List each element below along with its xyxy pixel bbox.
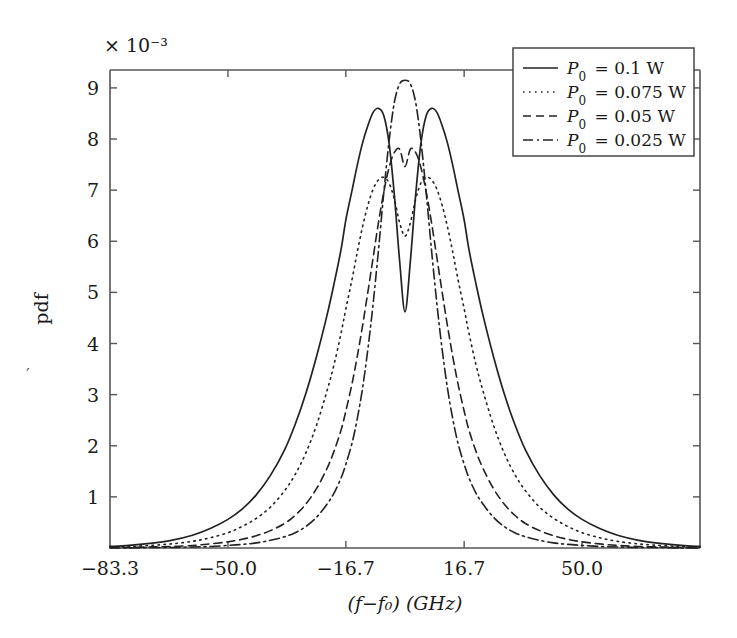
legend-value: = 0.025 W: [589, 130, 686, 150]
y-axis-title: pdf: [30, 291, 52, 324]
x-tick-label: −83.3: [81, 557, 139, 579]
x-tick-labels: −83.3−50.0−16.716.750.0: [81, 557, 603, 579]
curve-series-0: [110, 108, 700, 546]
legend-subscript: 0: [578, 94, 586, 108]
x-tick-label: 16.7: [443, 557, 485, 579]
y-tick-label: 4: [87, 333, 99, 355]
y-tick-label: 7: [87, 179, 99, 201]
legend-subscript: 0: [578, 142, 586, 156]
x-tick-label: −16.7: [317, 557, 375, 579]
legend-box[interactable]: P0 = 0.1 WP0 = 0.075 WP0 = 0.05 WP0 = 0.…: [513, 48, 694, 156]
stray-mark: ′: [26, 364, 30, 384]
x-axis-title: (f−f₀) (GHz): [347, 592, 462, 614]
y-tick-label: 2: [87, 435, 99, 457]
y-tick-label: 5: [87, 281, 99, 303]
curve-series-2: [110, 148, 700, 547]
figure-container: −83.3−50.0−16.716.750.0 123456789 × 10⁻³…: [0, 0, 737, 638]
y-tick-labels: 123456789: [87, 77, 99, 508]
y-tick-label: 6: [87, 230, 99, 252]
x-tick-label: −50.0: [199, 557, 257, 579]
legend-subscript: 0: [578, 118, 586, 132]
axis-labels: × 10⁻³pdf(f−f₀) (GHz)′: [26, 34, 463, 614]
y-tick-label: 1: [87, 486, 99, 508]
legend-symbol: P: [566, 82, 579, 102]
x-tick-label: 50.0: [561, 557, 603, 579]
y-tick-label: 8: [87, 128, 99, 150]
y-tick-label: 3: [87, 384, 99, 406]
legend-value: = 0.1 W: [589, 58, 664, 78]
y-tick-label: 9: [87, 77, 99, 99]
legend-value: = 0.05 W: [589, 106, 675, 126]
y-axis-multiplier: × 10⁻³: [104, 34, 168, 56]
legend-symbol: P: [566, 58, 579, 78]
legend-subscript: 0: [578, 70, 586, 84]
chart-canvas: −83.3−50.0−16.716.750.0 123456789 × 10⁻³…: [0, 0, 737, 638]
legend-symbol: P: [566, 106, 579, 126]
curve-series-1: [110, 177, 700, 547]
legend-symbol: P: [566, 130, 579, 150]
legend-value: = 0.075 W: [589, 82, 686, 102]
